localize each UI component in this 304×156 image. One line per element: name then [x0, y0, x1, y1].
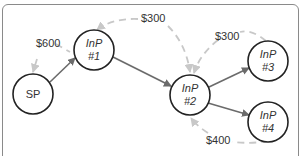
payment-edge-600-down	[33, 59, 37, 72]
node-inp4-number: #4	[262, 122, 274, 134]
diagram-canvas: $600 $300 $300 $400 SP InP #1 InP #2 InP…	[0, 0, 304, 156]
payment-label-300-top: $300	[141, 12, 165, 24]
edge-inp1-to-inp2	[113, 57, 171, 86]
node-inp4-name: InP	[260, 109, 277, 121]
node-inp3-name: InP	[260, 48, 277, 60]
solid-edges	[50, 57, 249, 115]
node-sp: SP	[13, 74, 53, 114]
node-inp4: InP #4	[248, 102, 288, 142]
payment-edge-300-right-into2	[194, 40, 218, 73]
edge-inp2-to-inp4	[208, 103, 249, 115]
edge-inp2-to-inp3	[209, 68, 249, 87]
edge-sp-to-inp1	[50, 58, 75, 82]
node-inp1: InP #1	[74, 30, 114, 70]
payment-edge-300-top-left	[97, 19, 138, 30]
payment-label-300-right: $300	[215, 30, 239, 42]
node-inp2-number: #2	[184, 95, 196, 107]
node-inp3-number: #3	[262, 61, 275, 73]
node-inp2: InP #2	[170, 75, 210, 115]
payment-edge-400-up	[191, 118, 208, 133]
payment-edge-300-top-right	[168, 26, 190, 72]
payment-label-600: $600	[36, 37, 60, 49]
payment-edge-300-right	[240, 31, 266, 41]
node-inp3: InP #3	[248, 41, 288, 81]
node-inp1-number: #1	[88, 50, 100, 62]
payment-label-400: $400	[206, 134, 230, 146]
node-inp1-name: InP	[86, 37, 103, 49]
node-inp2-name: InP	[182, 82, 199, 94]
node-sp-label: SP	[26, 88, 41, 100]
